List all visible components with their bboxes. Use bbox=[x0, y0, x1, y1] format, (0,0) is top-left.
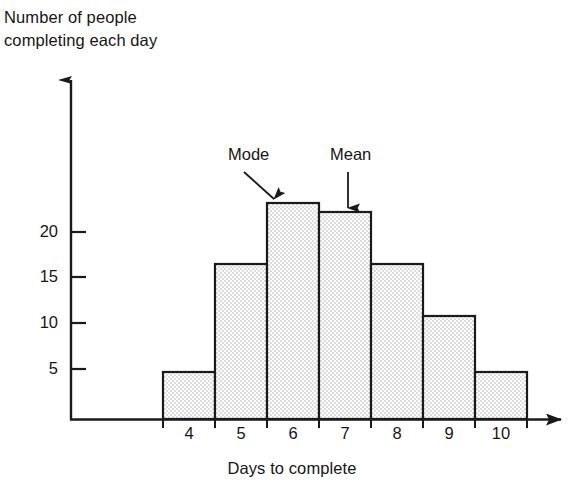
bar-10 bbox=[475, 372, 527, 419]
y-tick-marks bbox=[71, 232, 86, 369]
y-tick-label-5: 5 bbox=[16, 359, 58, 378]
bar-series bbox=[163, 203, 527, 419]
x-tick-label-8: 8 bbox=[371, 424, 423, 443]
bar-7 bbox=[319, 212, 371, 419]
mode-annotation-arrow bbox=[244, 172, 274, 199]
chart-canvas bbox=[0, 0, 584, 491]
bar-8 bbox=[371, 264, 423, 419]
x-tick-label-5: 5 bbox=[215, 424, 267, 443]
y-tick-label-20: 20 bbox=[16, 222, 58, 241]
bar-5 bbox=[215, 264, 267, 419]
x-tick-label-4: 4 bbox=[163, 424, 215, 443]
x-tick-label-6: 6 bbox=[267, 424, 319, 443]
mode-annotation-label: Mode bbox=[228, 145, 269, 164]
x-axis-title: Days to complete bbox=[0, 459, 584, 478]
bar-4 bbox=[163, 372, 215, 419]
y-tick-label-15: 15 bbox=[16, 267, 58, 286]
y-tick-label-10: 10 bbox=[16, 313, 58, 332]
x-tick-label-10: 10 bbox=[475, 424, 527, 443]
histogram-chart: Number of peoplecompleting each day bbox=[0, 0, 584, 491]
bar-6 bbox=[267, 203, 319, 419]
bar-9 bbox=[423, 316, 475, 419]
x-tick-label-7: 7 bbox=[319, 424, 371, 443]
mean-annotation-label: Mean bbox=[330, 145, 371, 164]
x-tick-label-9: 9 bbox=[423, 424, 475, 443]
